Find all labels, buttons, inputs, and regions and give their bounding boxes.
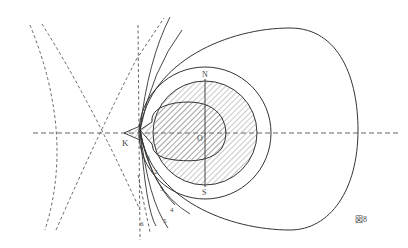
label-n: N <box>202 70 208 79</box>
curve-number-6: 6 <box>140 220 144 228</box>
curve-number-2: 2 <box>154 168 158 176</box>
figure-caption: 図8 <box>355 215 367 224</box>
curve-number-5: 5 <box>163 217 167 225</box>
label-k: K <box>122 138 129 148</box>
curve-number-3: 3 <box>160 185 164 193</box>
label-s: S <box>202 188 206 197</box>
diagram: K O N S 1 2 3 4 5 6 図8 <box>0 0 408 248</box>
curve-number-4: 4 <box>170 206 174 214</box>
label-o: O <box>197 134 203 143</box>
curve-number-1: 1 <box>147 154 151 162</box>
inner-lobe <box>140 102 226 161</box>
